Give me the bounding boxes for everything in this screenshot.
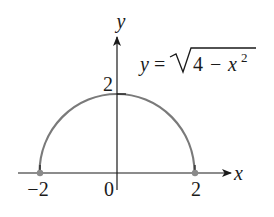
equation-lhs: y <box>138 53 149 76</box>
radicand-minus: − <box>210 53 221 75</box>
tick-label-pos-2: 2 <box>191 178 201 200</box>
equation-label: y = 4 − x 2 <box>138 48 256 76</box>
origin-label: 0 <box>104 178 114 200</box>
equation-equals: = <box>154 53 165 75</box>
semicircle-graph: y x −2 0 2 2 y = 4 − x 2 <box>0 0 274 217</box>
tick-label-neg-2: −2 <box>27 178 48 200</box>
x-axis-label: x <box>233 162 243 184</box>
tick-label-y-2: 2 <box>103 73 113 95</box>
radicand-exponent: 2 <box>241 50 248 65</box>
radicand-constant: 4 <box>193 53 203 75</box>
point-neg-2 <box>37 170 43 176</box>
y-axis-label: y <box>115 10 126 33</box>
point-pos-2 <box>192 170 198 176</box>
radicand-variable: x <box>227 53 237 75</box>
